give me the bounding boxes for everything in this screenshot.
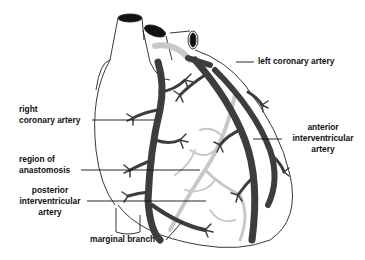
label-left-coronary-artery: left coronary artery <box>258 56 334 67</box>
coronary-arteries <box>122 58 289 240</box>
label-anterior-interventricular-line3: artery <box>283 144 363 155</box>
label-right-coronary-artery-line1: right <box>19 104 38 115</box>
label-posterior-interventricular-line1: posterior <box>10 185 90 196</box>
label-posterior-interventricular-line2: interventricular <box>10 196 90 207</box>
label-anterior-interventricular-line1: anterior <box>283 122 363 133</box>
label-region-of-anastomosis-line1: region of <box>19 154 55 165</box>
label-anterior-interventricular-line2: interventricular <box>283 133 363 144</box>
label-right-coronary-artery-line2: coronary artery <box>19 115 80 126</box>
label-region-of-anastomosis-line2: anastomosis <box>19 165 70 176</box>
right-coronary-artery <box>148 62 162 240</box>
label-marginal-branch: marginal branch <box>90 234 155 245</box>
label-posterior-interventricular-line3: artery <box>10 207 90 218</box>
